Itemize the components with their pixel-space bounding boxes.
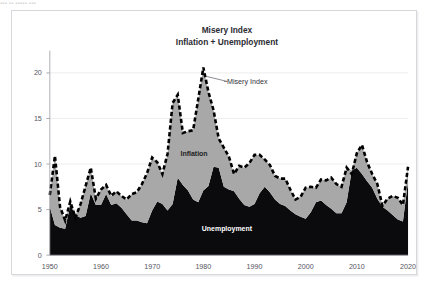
svg-text:5: 5: [38, 206, 42, 214]
chart-title-line1: Misery Index: [202, 25, 253, 35]
svg-text:1980: 1980: [195, 263, 211, 271]
svg-text:1990: 1990: [247, 263, 263, 271]
annotation-inflation: Inflation: [181, 150, 208, 157]
svg-text:0: 0: [38, 252, 42, 260]
page-caption-strip: ▪▪▪ ▪▪ ▪▪▪▪▪ ▪▪▪: [0, 0, 96, 7]
svg-text:2000: 2000: [298, 263, 314, 271]
svg-text:10: 10: [34, 161, 42, 169]
svg-text:1950: 1950: [42, 263, 58, 271]
svg-text:15: 15: [34, 115, 42, 123]
svg-text:1960: 1960: [93, 263, 109, 271]
svg-text:20: 20: [34, 69, 42, 77]
svg-text:2020: 2020: [400, 263, 416, 271]
svg-text:2010: 2010: [349, 263, 365, 271]
chart-title-line2: Inflation + Unemployment: [176, 37, 278, 47]
annotation-unemployment: Unemployment: [202, 225, 253, 233]
annotation-misery-index: Misery Index: [227, 78, 268, 86]
misery-index-chart: Misery Index Inflation + Unemployment 05…: [12, 11, 416, 274]
chart-frame: Misery Index Inflation + Unemployment 05…: [11, 10, 417, 275]
svg-text:1970: 1970: [144, 263, 160, 271]
